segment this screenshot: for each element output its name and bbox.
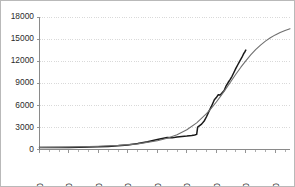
y-tick-label: 0 [29, 144, 34, 154]
x-tick-label: 2010 [241, 183, 251, 187]
chart-container: 0300060009000120001500018000 18001830186… [0, 0, 295, 187]
y-tick-labels-group: 0300060009000120001500018000 [11, 11, 35, 154]
x-tick-label: 1920 [153, 183, 163, 187]
y-tick-label: 3000 [15, 122, 34, 132]
gridlines-group [40, 17, 291, 127]
x-tick-labels-group: 180018301860189019201950198020102040 [35, 183, 281, 187]
x-tick-label: 1830 [64, 183, 74, 187]
line-chart-plot: 0300060009000120001500018000 18001830186… [1, 1, 295, 187]
series-line-observed [40, 50, 246, 147]
y-tick-label: 15000 [11, 33, 35, 43]
tick-marks-group [37, 17, 286, 153]
x-tick-label: 1800 [35, 183, 45, 187]
x-tick-label: 1980 [212, 183, 222, 187]
x-tick-label: 2040 [271, 183, 281, 187]
series-line-fitted [40, 29, 291, 148]
y-tick-label: 12000 [11, 55, 35, 65]
y-tick-label: 6000 [15, 100, 34, 110]
x-tick-label: 1890 [123, 183, 133, 187]
x-tick-label: 1860 [94, 183, 104, 187]
x-tick-label: 1950 [182, 183, 192, 187]
y-tick-label: 18000 [11, 11, 35, 21]
y-tick-label: 9000 [15, 77, 34, 87]
data-series-group [40, 29, 291, 148]
